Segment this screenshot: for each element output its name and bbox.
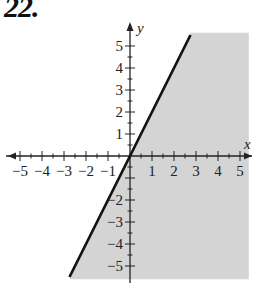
x-tick-label: 4 (214, 163, 222, 179)
y-tick-label: −4 (107, 236, 123, 252)
x-tick-label: 3 (192, 163, 200, 179)
x-axis-left-arrow-icon (8, 153, 16, 160)
x-tick-label: −1 (100, 163, 116, 179)
y-tick-label: 2 (116, 104, 124, 120)
y-axis-label: y (135, 20, 144, 36)
inequality-graph: xy −5−4−3−2−11234554321−2−3−4−5 (0, 0, 257, 294)
x-tick-label: −5 (12, 163, 28, 179)
x-tick-label: −3 (56, 163, 72, 179)
y-tick-label: 1 (116, 126, 124, 142)
y-tick-label: −5 (107, 258, 123, 274)
x-tick-label: −4 (34, 163, 50, 179)
x-axis-label: x (243, 136, 251, 152)
x-tick-label: 1 (148, 163, 156, 179)
y-tick-label: 3 (116, 82, 124, 98)
x-tick-label: 5 (236, 163, 244, 179)
y-tick-label: 4 (116, 60, 124, 76)
x-tick-label: 2 (170, 163, 178, 179)
y-tick-label: −3 (107, 214, 123, 230)
y-tick-label: 5 (116, 38, 124, 54)
x-tick-label: −2 (78, 163, 94, 179)
y-axis-arrow-icon (127, 22, 134, 31)
